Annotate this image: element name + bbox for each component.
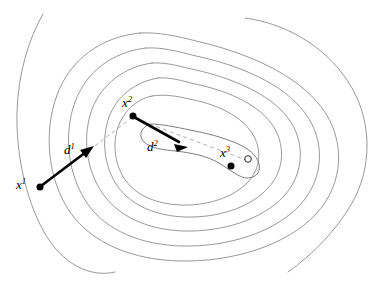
label-d1: d1 — [64, 143, 75, 156]
iterate-point-x3 — [228, 163, 235, 170]
label-x1-sup: 1 — [22, 176, 26, 186]
contour-figure: x1 d1 x2 d2 x3 — [0, 0, 383, 287]
label-x3: x3 — [220, 146, 230, 159]
label-d1-sup: 1 — [71, 141, 75, 151]
label-x2: x2 — [122, 96, 132, 109]
contour-plot-canvas — [0, 0, 383, 287]
label-x3-sup: 3 — [226, 144, 230, 154]
label-x1: x1 — [16, 178, 26, 191]
contour-level-2 — [115, 95, 259, 205]
optimum-point-marker — [245, 156, 252, 163]
step-vector-d1 — [41, 152, 86, 186]
label-d2-sup: 2 — [154, 138, 158, 148]
contour-level-4 — [87, 63, 301, 231]
contour-level-5 — [69, 48, 320, 246]
label-x2-sup: 2 — [128, 94, 132, 104]
contour-level-7-right — [245, 18, 367, 272]
iterate-point-x2 — [130, 113, 137, 120]
iterate-point-x1 — [37, 184, 44, 191]
label-d2: d2 — [147, 140, 158, 153]
